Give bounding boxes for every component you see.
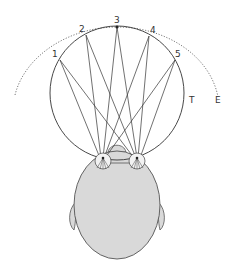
arc-label-e: E	[215, 95, 221, 105]
head	[70, 145, 165, 259]
point-label-2: 2	[79, 24, 85, 34]
point-label-1: 1	[52, 49, 58, 59]
point-3-marker	[116, 26, 119, 29]
left-eye	[95, 153, 111, 169]
outer-dotted-arc	[15, 27, 218, 97]
sight-lines	[60, 27, 175, 158]
point-label-5: 5	[175, 49, 181, 59]
circle-label-t: T	[188, 95, 195, 105]
point-label-4: 4	[150, 25, 156, 35]
head-outline	[74, 151, 160, 259]
point-label-3: 3	[114, 15, 120, 25]
target-circle	[50, 26, 184, 160]
right-eye	[129, 153, 145, 169]
visual-field-diagram: 1 2 3 4 5 T E	[0, 0, 232, 271]
